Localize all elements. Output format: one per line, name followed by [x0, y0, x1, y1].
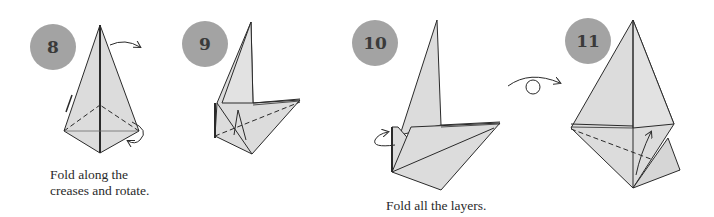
step-number: 8 — [47, 37, 59, 57]
caption-line: creases and rotate. — [50, 183, 149, 199]
step-10-caption: Fold all the layers. — [386, 198, 486, 214]
caption-line: Fold all the layers. — [386, 198, 486, 214]
step-badge-8: 8 — [30, 24, 76, 70]
caption-line: Fold along the — [50, 167, 149, 183]
step-badge-9: 9 — [182, 21, 228, 67]
turn-over-arrow-icon — [508, 77, 560, 94]
step-badge-10: 10 — [352, 20, 398, 66]
step-badge-11: 11 — [565, 18, 611, 64]
step-number: 9 — [199, 34, 211, 54]
origami-instructions: 8 9 10 11 Fold along the creases and rot… — [0, 0, 714, 217]
step-8-caption: Fold along the creases and rotate. — [50, 167, 149, 199]
step-number: 10 — [363, 33, 387, 53]
step-number: 11 — [576, 31, 600, 51]
